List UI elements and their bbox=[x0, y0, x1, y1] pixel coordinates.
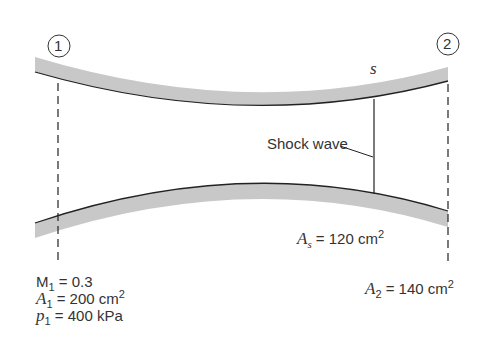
bottom-wall bbox=[35, 183, 448, 238]
shock-marker: s bbox=[370, 60, 377, 77]
top-wall bbox=[35, 57, 448, 105]
shock-area-label: As = 120 cm2 bbox=[297, 230, 384, 249]
station-2-area-label: A2 = 140 cm2 bbox=[365, 280, 454, 299]
shock-wave-label: Shock wave bbox=[267, 135, 348, 152]
station-2-marker: 2 bbox=[443, 35, 451, 52]
station-1-pressure-label: p1 = 400 kPa bbox=[36, 307, 123, 326]
station-1-marker: 1 bbox=[54, 37, 62, 54]
